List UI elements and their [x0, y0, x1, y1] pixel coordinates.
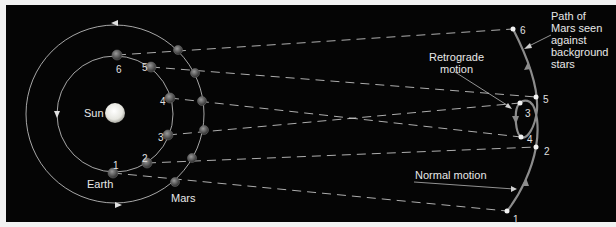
sky-number-2: 2	[544, 147, 550, 157]
sky-point	[505, 209, 510, 214]
earth-position	[112, 50, 122, 60]
earth-position	[163, 130, 173, 140]
retrograde-pointer	[455, 72, 510, 107]
mars-label: Mars	[171, 192, 195, 204]
diagram-canvas: Sun Earth Mars Retrograde motion Normal …	[6, 5, 616, 222]
path-arrow-retro-icon	[512, 116, 519, 124]
sky-point	[534, 95, 539, 100]
retrograde-pointer-arrow-icon	[505, 103, 512, 109]
path-label: Path of Mars seen against background sta…	[551, 10, 609, 70]
sky-points	[505, 27, 539, 214]
earth-number-1: 1	[113, 161, 119, 171]
sun-label: Sun	[84, 107, 104, 119]
earth-number-3: 3	[158, 133, 164, 143]
sight-line	[168, 103, 520, 135]
sky-number-6: 6	[520, 26, 526, 36]
mars-position	[191, 69, 200, 78]
retrograde-label: Retrograde motion	[429, 51, 484, 75]
sun	[105, 103, 125, 123]
mars-apparent-path	[507, 29, 538, 211]
path-pointer-arrow-icon	[524, 43, 532, 49]
sky-point	[511, 27, 516, 32]
mars-position	[200, 126, 209, 135]
mars-position	[171, 178, 180, 187]
orbit-arrow-left-icon	[54, 111, 60, 118]
sky-point	[519, 135, 524, 140]
normal-pointer	[414, 182, 514, 189]
earth-number-4: 4	[160, 97, 166, 107]
mars-position	[174, 46, 183, 55]
normal-pointer-arrow-icon	[511, 186, 517, 192]
earth-number-5: 5	[142, 63, 148, 73]
normal-motion-label: Normal motion	[415, 169, 487, 181]
earth-position	[165, 93, 175, 103]
sky-number-1: 1	[513, 215, 519, 225]
sight-line	[147, 147, 536, 163]
sky-point	[534, 145, 539, 150]
sky-point	[518, 101, 523, 106]
sky-number-5: 5	[543, 95, 549, 105]
earth-label: Earth	[87, 178, 113, 190]
earth-number-2: 2	[142, 154, 148, 164]
sky-number-3: 3	[525, 109, 531, 119]
mars-position	[198, 97, 207, 106]
mars-position	[188, 154, 197, 163]
sight-line	[170, 98, 521, 137]
earth-number-6: 6	[116, 65, 122, 75]
sky-number-4: 4	[527, 135, 533, 145]
path-arrow-lower-icon	[522, 178, 529, 186]
